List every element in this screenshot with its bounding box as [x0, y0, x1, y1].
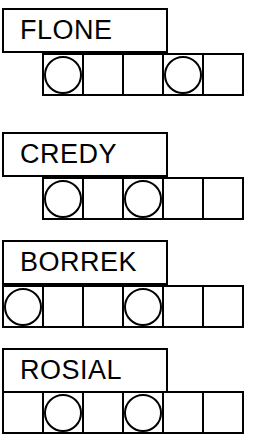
circle-icon	[124, 394, 162, 432]
letter-box-circled[interactable]	[122, 391, 164, 434]
circle-icon	[124, 180, 162, 218]
letter-box[interactable]	[82, 177, 124, 220]
letter-box[interactable]	[202, 285, 244, 328]
letter-box[interactable]	[42, 285, 84, 328]
letter-box-row	[2, 391, 244, 434]
letter-box[interactable]	[2, 391, 44, 434]
circle-icon	[44, 180, 82, 218]
letter-box[interactable]	[82, 53, 124, 96]
letter-box[interactable]	[162, 177, 204, 220]
word-label-text: ROSIAL	[4, 357, 122, 384]
letter-box-row	[2, 285, 244, 328]
letter-box[interactable]	[162, 391, 204, 434]
letter-box-circled[interactable]	[162, 53, 204, 96]
letter-box-circled[interactable]	[42, 177, 84, 220]
letter-box[interactable]	[202, 391, 244, 434]
circle-icon	[164, 56, 202, 94]
word-label-box: CREDY	[2, 132, 168, 177]
letter-box[interactable]	[162, 285, 204, 328]
letter-box[interactable]	[202, 53, 244, 96]
circle-icon	[4, 288, 42, 326]
letter-box-circled[interactable]	[42, 391, 84, 434]
letter-box-row	[42, 53, 244, 96]
letter-box-circled[interactable]	[122, 177, 164, 220]
word-label-text: CREDY	[4, 141, 117, 168]
circle-icon	[44, 394, 82, 432]
letter-box[interactable]	[82, 285, 124, 328]
letter-box-circled[interactable]	[122, 285, 164, 328]
word-label-box: BORREK	[2, 240, 168, 285]
word-label-box: ROSIAL	[2, 348, 168, 393]
word-label-text: FLONE	[4, 17, 113, 44]
letter-box[interactable]	[122, 53, 164, 96]
letter-box-row	[42, 177, 244, 220]
letter-box[interactable]	[82, 391, 124, 434]
word-label-box: FLONE	[2, 8, 168, 53]
circle-icon	[44, 56, 82, 94]
circle-icon	[124, 288, 162, 326]
letter-box[interactable]	[202, 177, 244, 220]
letter-box-circled[interactable]	[2, 285, 44, 328]
word-label-text: BORREK	[4, 249, 137, 276]
letter-box-circled[interactable]	[42, 53, 84, 96]
word-worksheet: FLONECREDYBORREKROSIAL	[0, 0, 260, 448]
